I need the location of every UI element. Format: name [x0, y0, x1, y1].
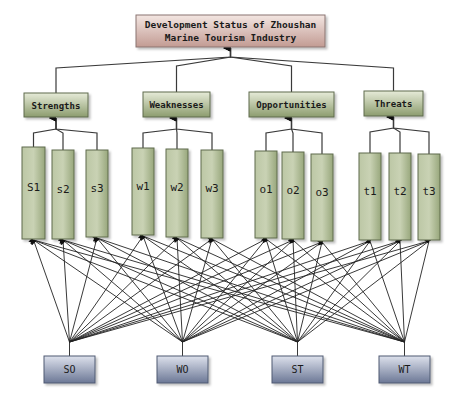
factor-label: w3	[205, 182, 218, 195]
category-label: Weaknesses	[149, 100, 203, 110]
factor-node-s2: s2	[52, 150, 74, 239]
category-label: Opportunities	[256, 100, 326, 110]
strategy-node-st: ST	[272, 356, 323, 383]
factor-node-w3: w3	[201, 150, 223, 238]
strategy-label: ST	[291, 364, 303, 375]
factor-node-o1: o1	[255, 151, 277, 238]
factor-node-t2: t2	[389, 153, 411, 240]
strategy-label: WO	[176, 364, 188, 375]
factor-node-s1: S1	[22, 147, 45, 239]
factor-label: t3	[422, 185, 435, 198]
strategy-node-wo: WO	[157, 356, 208, 383]
swot-hierarchy-diagram: Development Status of Zhoushan Marine To…	[0, 0, 457, 401]
title-node: Development Status of Zhoushan Marine To…	[136, 15, 325, 47]
factor-label: s3	[90, 182, 103, 195]
category-node-threats: Threats	[364, 91, 423, 116]
factor-node-w1: w1	[132, 148, 154, 235]
strategy-label: WT	[398, 364, 410, 375]
strategy-node-so: SO	[44, 356, 95, 383]
factor-label: s2	[56, 183, 69, 196]
category-node-opportunities: Opportunities	[249, 92, 334, 117]
category-label: Threats	[375, 99, 413, 109]
strategy-node-wt: WT	[379, 356, 430, 383]
factor-node-o3: o3	[311, 154, 333, 241]
category-node-weaknesses: Weaknesses	[143, 92, 210, 117]
factor-label: w1	[136, 180, 149, 193]
factor-node-w2: w2	[166, 149, 188, 237]
factor-node-t1: t1	[359, 153, 381, 240]
factor-nodes: S1s2s3w1w2w3o1o2o3t1t2t3	[22, 147, 440, 241]
title-line-1: Development Status of Zhoushan	[145, 19, 317, 30]
factor-node-o2: o2	[282, 152, 304, 239]
category-nodes: StrengthsWeaknessesOpportunitiesThreats	[24, 91, 423, 117]
factor-label: S1	[27, 181, 40, 194]
factor-node-t3: t3	[418, 154, 440, 240]
factor-label: o2	[286, 184, 299, 197]
strategy-label: SO	[63, 364, 75, 375]
factor-label: o1	[259, 183, 272, 196]
factor-label: w2	[170, 181, 183, 194]
strategy-nodes: SOWOSTWT	[44, 356, 430, 383]
factor-label: o3	[315, 186, 328, 199]
factor-node-s3: s3	[86, 150, 108, 237]
strategy-factor-lines	[34, 236, 430, 356]
category-label: Strengths	[32, 101, 81, 111]
factor-label: t2	[393, 185, 406, 198]
category-node-strengths: Strengths	[24, 93, 88, 117]
factor-label: t1	[363, 185, 376, 198]
title-line-2: Marine Tourism Industry	[165, 32, 297, 43]
